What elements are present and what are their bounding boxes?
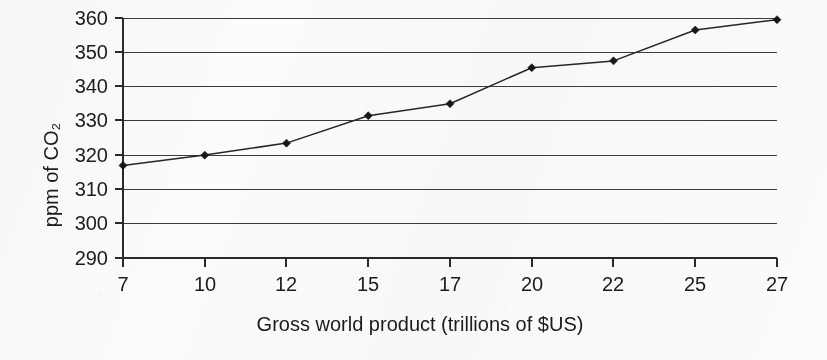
y-tick-label-300: 300 xyxy=(75,212,108,234)
x-tick-label-10: 10 xyxy=(194,273,216,295)
chart-page: 360 350 340 330 320 310 300 290 ppm of C… xyxy=(0,0,827,360)
y-tick-label-350: 350 xyxy=(75,41,108,63)
y-axis-ticks xyxy=(115,18,123,258)
gridlines xyxy=(123,18,777,258)
y-tick-label-290: 290 xyxy=(75,247,108,269)
data-point-marker xyxy=(773,16,781,24)
data-point-marker xyxy=(610,57,618,65)
x-tick-label-15: 15 xyxy=(357,273,379,295)
x-tick-label-20: 20 xyxy=(521,273,543,295)
data-point-marker xyxy=(364,112,372,120)
y-axis-tick-labels: 360 350 340 330 320 310 300 290 xyxy=(75,7,108,269)
series-markers xyxy=(119,16,781,170)
y-tick-label-360: 360 xyxy=(75,7,108,29)
y-axis-title: ppm of CO₂ xyxy=(40,123,62,227)
series-line-co2 xyxy=(123,20,777,166)
x-tick-label-12: 12 xyxy=(275,273,297,295)
y-tick-label-310: 310 xyxy=(75,178,108,200)
data-point-marker xyxy=(283,139,291,147)
line-chart: 360 350 340 330 320 310 300 290 ppm of C… xyxy=(0,0,827,360)
x-axis-ticks xyxy=(123,258,777,267)
x-tick-label-27: 27 xyxy=(766,273,788,295)
data-point-marker xyxy=(201,151,209,159)
x-tick-label-22: 22 xyxy=(602,273,624,295)
x-tick-label-17: 17 xyxy=(439,273,461,295)
data-point-marker xyxy=(528,64,536,72)
y-tick-label-340: 340 xyxy=(75,75,108,97)
y-tick-label-330: 330 xyxy=(75,109,108,131)
x-tick-label-7: 7 xyxy=(117,273,128,295)
data-point-marker xyxy=(119,161,127,169)
x-axis-tick-labels: 7 10 12 15 17 20 22 25 27 xyxy=(117,273,788,295)
y-tick-label-320: 320 xyxy=(75,144,108,166)
data-point-marker xyxy=(446,100,454,108)
data-point-marker xyxy=(691,26,699,34)
x-tick-label-25: 25 xyxy=(684,273,706,295)
x-axis-title: Gross world product (trillions of $US) xyxy=(257,313,584,335)
